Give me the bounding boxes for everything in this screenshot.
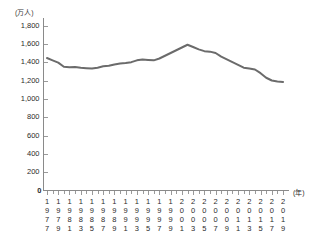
x-axis-tick-digit: 0 xyxy=(257,206,264,215)
x-axis-tick-digit: 9 xyxy=(111,206,118,215)
x-axis-tick-digit: 0 xyxy=(280,206,287,215)
x-axis-tick-digit: 9 xyxy=(145,206,152,215)
x-axis-tick-digit: 1 xyxy=(122,224,129,233)
x-axis-tick-digit: 9 xyxy=(122,206,129,215)
x-axis-tick-digit: 0 xyxy=(235,206,242,215)
x-axis-tick-digit: 9 xyxy=(77,206,84,215)
x-axis-tick-digit: 9 xyxy=(133,215,140,224)
x-axis-tick-digit: 8 xyxy=(100,215,107,224)
x-axis-tick-digit: 1 xyxy=(55,197,62,206)
x-axis-tick-digit: 1 xyxy=(88,197,95,206)
x-axis-tick-label: 1991 xyxy=(122,197,129,234)
x-axis-tick-digit: 1 xyxy=(235,215,242,224)
x-axis-tick-digit: 0 xyxy=(178,206,185,215)
x-axis-tick-digit: 3 xyxy=(77,224,84,233)
x-axis-tick-digit: 9 xyxy=(88,206,95,215)
x-axis-tick-label: 1989 xyxy=(111,197,118,234)
x-axis-tick-digit: 1 xyxy=(268,215,275,224)
y-axis-tick-label: 1,200 xyxy=(14,76,40,85)
x-axis-tick-digit: 0 xyxy=(190,206,197,215)
x-axis-tick-digit: 9 xyxy=(133,206,140,215)
x-axis-unit-label: (年) xyxy=(293,187,305,197)
x-axis-tick-digit: 0 xyxy=(223,206,230,215)
x-axis-tick-label: 1983 xyxy=(77,197,84,234)
x-axis-tick-digit: 0 xyxy=(201,206,208,215)
x-axis-tick-digit: 1 xyxy=(44,197,51,206)
x-axis-tick-label: 2011 xyxy=(235,197,242,234)
x-axis-tick-label: 1981 xyxy=(66,197,73,234)
x-axis-tick-digit: 9 xyxy=(156,215,163,224)
x-axis-tick-digit: 7 xyxy=(100,224,107,233)
x-axis-tick-digit: 3 xyxy=(190,224,197,233)
y-axis-tick-label: 0 xyxy=(16,186,42,195)
x-axis-tick-digit: 7 xyxy=(44,215,51,224)
x-axis-tick-digit: 9 xyxy=(55,224,62,233)
x-axis-tick-digit: 2 xyxy=(212,197,219,206)
y-axis-tick-label: 600 xyxy=(14,131,40,140)
x-axis-tick-digit: 9 xyxy=(280,224,287,233)
x-axis-tick-digit: 1 xyxy=(257,215,264,224)
x-axis-tick-digit: 9 xyxy=(145,215,152,224)
x-axis-tick-label: 1987 xyxy=(100,197,107,234)
x-axis-tick-label: 2017 xyxy=(268,197,275,234)
x-axis-tick-digit: 1 xyxy=(133,197,140,206)
x-axis-tick-digit: 5 xyxy=(201,224,208,233)
x-axis-tick-digit: 2 xyxy=(235,197,242,206)
x-axis-tick-label: 1979 xyxy=(55,197,62,234)
x-axis-tick-digit: 1 xyxy=(178,224,185,233)
x-axis-tick-digit: 2 xyxy=(268,197,275,206)
x-axis-tick-digit: 9 xyxy=(122,215,129,224)
y-axis-tick-label: 1,600 xyxy=(14,39,40,48)
x-axis-tick-digit: 9 xyxy=(111,224,118,233)
y-axis-tick-label: 200 xyxy=(14,167,40,176)
x-axis-tick-digit: 7 xyxy=(55,215,62,224)
x-axis-tick-label: 2015 xyxy=(257,197,264,234)
x-axis-tick-digit: 0 xyxy=(201,215,208,224)
y-axis-tick-label: 400 xyxy=(14,149,40,158)
x-axis-tick-digit: 7 xyxy=(268,224,275,233)
x-axis-tick-digit: 5 xyxy=(257,224,264,233)
x-axis-tick-digit: 2 xyxy=(223,197,230,206)
x-axis-tick-digit: 9 xyxy=(44,206,51,215)
x-axis-tick-label: 1993 xyxy=(133,197,140,234)
x-axis-tick-digit: 9 xyxy=(167,224,174,233)
x-axis-tick-digit: 2 xyxy=(190,197,197,206)
x-axis-tick-digit: 1 xyxy=(167,197,174,206)
x-axis-tick-digit: 5 xyxy=(88,224,95,233)
x-axis-tick-digit: 1 xyxy=(66,197,73,206)
x-axis-tick-label: 1997 xyxy=(156,197,163,234)
x-axis-tick-digit: 5 xyxy=(145,224,152,233)
line-chart: (万人) 02004006008001,0001,2001,4001,6001,… xyxy=(0,0,309,246)
x-axis-tick-digit: 9 xyxy=(167,206,174,215)
x-axis-tick-digit: 1 xyxy=(280,215,287,224)
x-axis-tick-digit: 0 xyxy=(212,215,219,224)
x-axis-tick-digit: 9 xyxy=(167,215,174,224)
x-axis-tick-digit: 2 xyxy=(178,197,185,206)
y-axis-tick-label: 1,400 xyxy=(14,57,40,66)
y-axis-tick-label: 1,800 xyxy=(14,21,40,30)
x-axis-tick-digit: 2 xyxy=(246,197,253,206)
x-axis-tick-label: 2019 xyxy=(280,197,287,234)
x-axis-tick-digit: 8 xyxy=(88,215,95,224)
x-axis-tick-digit: 9 xyxy=(156,206,163,215)
x-axis-tick-label: 2005 xyxy=(201,197,208,234)
x-axis-tick-label: 1999 xyxy=(167,197,174,234)
x-axis-tick-digit: 1 xyxy=(100,197,107,206)
y-axis-tick-label: 1,000 xyxy=(14,94,40,103)
x-axis-tick-digit: 1 xyxy=(122,197,129,206)
x-axis-tick-digit: 3 xyxy=(246,224,253,233)
x-axis-tick-digit: 0 xyxy=(246,206,253,215)
x-axis-tick-digit: 1 xyxy=(111,197,118,206)
x-axis-tick-digit: 7 xyxy=(44,224,51,233)
x-axis-tick-label: 2003 xyxy=(190,197,197,234)
x-axis-tick-digit: 9 xyxy=(223,224,230,233)
x-axis-tick-digit: 1 xyxy=(235,224,242,233)
x-axis-tick-digit: 0 xyxy=(178,215,185,224)
x-axis-tick-label: 2013 xyxy=(246,197,253,234)
x-axis-tick-digit: 0 xyxy=(223,215,230,224)
x-axis-tick-label: 2009 xyxy=(223,197,230,234)
x-axis-tick-digit: 9 xyxy=(55,206,62,215)
x-axis-tick-label: 2001 xyxy=(178,197,185,234)
x-axis-tick-digit: 9 xyxy=(66,206,73,215)
x-axis-tick-digit: 0 xyxy=(190,215,197,224)
